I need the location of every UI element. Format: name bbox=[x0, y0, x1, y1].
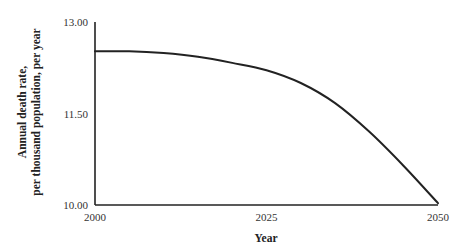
y-axis-label-line-1: Annual death rate, bbox=[16, 66, 28, 158]
y-tick-label: 11.50 bbox=[64, 108, 89, 120]
y-tick-label: 10.00 bbox=[63, 199, 88, 211]
x-tick-labels: 200020252050 bbox=[84, 211, 450, 223]
y-axis-label-line-2: per thousand population, per year bbox=[30, 28, 43, 195]
death-rate-chart: Annual death rate, per thousand populati… bbox=[0, 0, 462, 252]
x-tick-label: 2050 bbox=[427, 211, 450, 223]
series-group bbox=[95, 51, 438, 203]
x-tick-label: 2025 bbox=[256, 211, 279, 223]
series-line-death-rate bbox=[95, 51, 438, 203]
x-axis-label: Year bbox=[255, 232, 278, 244]
x-tick-label: 2000 bbox=[84, 211, 107, 223]
y-tick-labels: 10.0011.5013.00 bbox=[63, 16, 88, 211]
y-axis-label: Annual death rate, per thousand populati… bbox=[16, 28, 43, 195]
y-tick-label: 13.00 bbox=[63, 16, 88, 28]
